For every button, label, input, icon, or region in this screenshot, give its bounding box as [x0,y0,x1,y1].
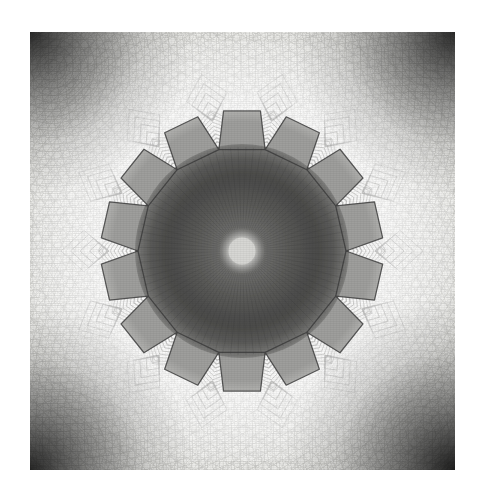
petal-tile [219,352,265,391]
petal-tile [219,111,265,150]
gap-diamond-motif [61,230,107,271]
central-core-highlight [222,231,262,271]
artwork-page: Grayscale Kaleidoscopic Star Rosette Man… [0,0,483,499]
artwork-title: Grayscale Kaleidoscopic Star Rosette Man… [0,21,1,22]
gap-diamond-motif [377,230,423,271]
star-rosette [30,32,455,470]
image-plate [30,32,455,470]
